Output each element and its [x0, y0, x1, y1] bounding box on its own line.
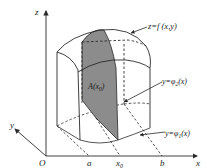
tick-x0-label: x0 [115, 158, 123, 168]
tick-a-label: a [87, 158, 92, 168]
surface-label: z=f (x,y) [147, 21, 177, 31]
tick-b-label: b [160, 158, 165, 168]
lower-curve-label: y=φ1(x) [164, 129, 190, 139]
z-axis-label: z [34, 7, 39, 17]
cross-section-label: A(x0) [87, 82, 105, 92]
origin-label: O [39, 158, 46, 168]
x-axis-label: x [195, 158, 200, 168]
y-axis-label: y [9, 120, 14, 130]
upper-curve-label: y=φ2(x) [161, 77, 187, 87]
y-axis [15, 129, 46, 156]
annotation-arrows [124, 27, 165, 135]
solid-volume-diagram: z y x O a x0 b z=f (x,y) A(x0) y=φ2(x) y… [0, 0, 207, 168]
